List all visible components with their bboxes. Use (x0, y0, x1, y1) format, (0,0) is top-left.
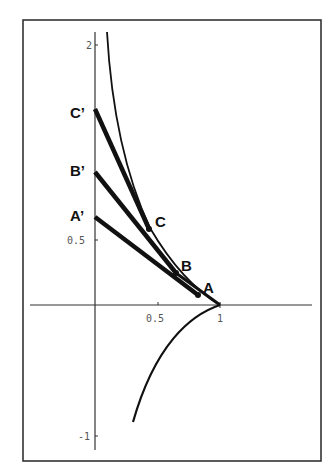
point-A (195, 292, 201, 298)
x-tick-label-0.5: 0.5 (146, 313, 164, 324)
y-tick-label-2: 2 (86, 40, 92, 51)
point-B (173, 270, 179, 276)
label-B-prime: B’ (70, 162, 85, 179)
point-C (146, 226, 152, 232)
label-B: B (181, 257, 192, 274)
label-C: C (155, 213, 166, 230)
label-C-prime: C’ (70, 104, 85, 121)
label-A-prime: A’ (70, 207, 84, 224)
x-tick-label-1: 1 (217, 313, 223, 324)
y-tick-label-neg1: -1 (78, 431, 90, 442)
diagram-canvas: 0.5 1 2 0.5 -1 A B C A’ B’ C’ (0, 0, 333, 473)
segment-C-prime-C (95, 109, 149, 229)
y-tick-label-0.5: 0.5 (67, 235, 85, 246)
label-A: A (203, 279, 214, 296)
